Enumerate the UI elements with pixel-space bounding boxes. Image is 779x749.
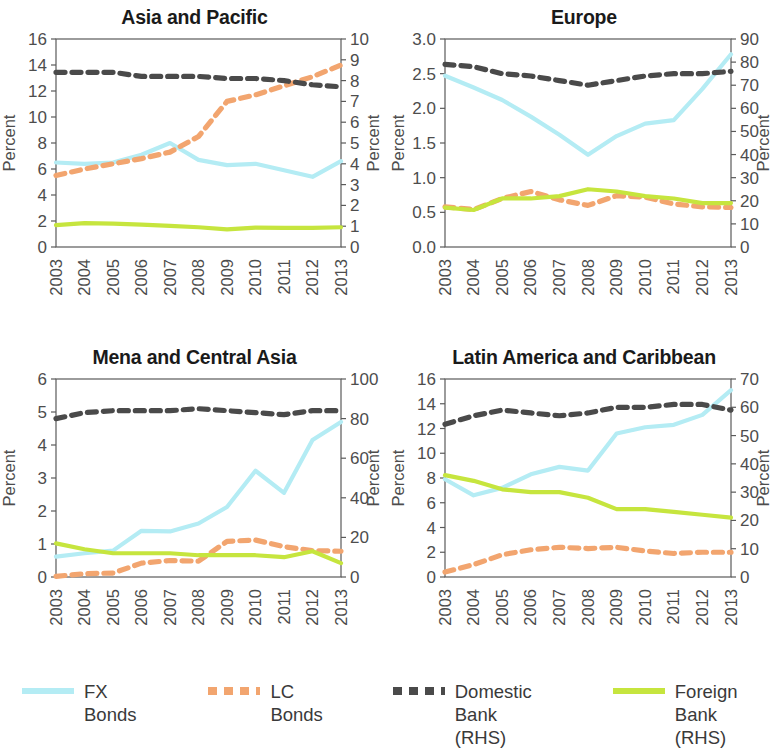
y2-axis-tick-label: 70	[740, 76, 759, 95]
y2-axis-tick-label: 5	[350, 134, 359, 153]
chart-svg: 0123456020406080100200320042005200620072…	[0, 369, 389, 669]
y-axis-tick-label: 12	[417, 420, 436, 439]
x-axis-tick-label: 2012	[693, 589, 711, 626]
legend-item-domestic-bank[interactable]: Domestic Bank (RHS)	[393, 680, 573, 749]
y-axis-tick-label: 6	[427, 494, 436, 513]
y-axis-tick-label: 10	[417, 444, 436, 463]
panel-title: Asia and Pacific	[0, 0, 389, 29]
x-axis-tick-label: 2004	[75, 259, 93, 296]
y2-axis-tick-label: 20	[740, 192, 759, 211]
y-axis-tick-label: 0	[427, 568, 436, 587]
y-axis-tick-label: 2	[38, 502, 47, 521]
y-axis-tick-label: 5	[38, 403, 47, 422]
x-axis-tick-label: 2011	[664, 589, 682, 624]
panel-europe: Europe 0.00.51.01.52.02.53.0010203040506…	[389, 0, 779, 340]
y2-axis-tick-label: 80	[740, 53, 759, 72]
legend-item-foreign-bank[interactable]: Foreign Bank (RHS)	[613, 680, 779, 749]
x-axis-tick-label: 2008	[189, 259, 207, 296]
x-axis-tick-label: 2010	[636, 259, 654, 296]
y2-axis-tick-label: 4	[350, 155, 359, 174]
x-axis-tick-label: 2013	[332, 259, 350, 296]
series-line-fx-bonds	[56, 422, 341, 557]
series-line-domestic-bank-rhs	[56, 409, 341, 419]
x-axis-tick-label: 2009	[218, 589, 236, 626]
legend-label: Domestic Bank (RHS)	[455, 680, 573, 749]
y2-axis-tick-label: 10	[740, 215, 759, 234]
y-axis-tick-label: 0.0	[412, 238, 436, 257]
x-axis-tick-label: 2011	[664, 259, 682, 294]
y-axis-tick-label: 10	[28, 108, 47, 127]
y2-axis-tick-label: 100	[350, 370, 378, 389]
legend-swatch-icon	[613, 688, 665, 694]
y-axis-tick-label: 3	[38, 469, 47, 488]
y-axis-tick-label: 14	[28, 56, 47, 75]
x-axis-tick-label: 2007	[550, 589, 568, 626]
chart-svg: 0246810121416012345678910200320042005200…	[0, 29, 389, 339]
x-axis-tick-label: 2007	[161, 259, 179, 296]
y2-axis-tick-label: 20	[740, 511, 759, 530]
chart-legend: FX BondsLC BondsDomestic Bank (RHS)Forei…	[0, 672, 779, 741]
x-axis-tick-label: 2013	[722, 259, 740, 296]
y-axis-tick-label: 1.5	[412, 134, 436, 153]
x-axis-tick-label: 2009	[607, 589, 625, 626]
panel-mena-and-central-asia: Mena and Central Asia 012345602040608010…	[0, 340, 389, 670]
y2-axis-title: Percent	[364, 114, 382, 171]
y-axis-tick-label: 12	[28, 82, 47, 101]
x-axis-tick-label: 2012	[303, 589, 321, 626]
y2-axis-tick-label: 3	[350, 176, 359, 195]
y2-axis-tick-label: 20	[350, 528, 369, 547]
legend-label: FX Bonds	[84, 680, 160, 726]
x-axis-tick-label: 2003	[436, 589, 454, 626]
y-axis-tick-label: 8	[38, 134, 47, 153]
y-axis-tick-label: 16	[417, 370, 436, 389]
y2-axis-tick-label: 0	[350, 238, 359, 257]
chart-svg: 0246810121416010203040506070200320042005…	[389, 369, 779, 669]
y2-axis-tick-label: 0	[740, 238, 749, 257]
x-axis-tick-label: 2012	[693, 259, 711, 296]
y-axis-tick-label: 3.0	[412, 30, 436, 49]
y2-axis-title: Percent	[754, 449, 772, 506]
x-axis-tick-label: 2009	[607, 259, 625, 296]
x-axis-tick-label: 2011	[275, 589, 293, 624]
y2-axis-tick-label: 10	[350, 30, 369, 49]
y-axis-title: Percent	[389, 114, 407, 171]
x-axis-tick-label: 2003	[47, 589, 65, 626]
panel-title: Mena and Central Asia	[0, 340, 389, 369]
x-axis-tick-label: 2008	[579, 259, 597, 296]
x-axis-tick-label: 2003	[47, 259, 65, 296]
y2-axis-tick-label: 9	[350, 51, 359, 70]
series-line-foreign-bank-rhs	[445, 475, 731, 517]
x-axis-tick-label: 2004	[75, 589, 93, 626]
y-axis-tick-label: 0	[38, 568, 47, 587]
legend-item-lc-bonds[interactable]: LC Bonds	[208, 680, 346, 726]
x-axis-tick-label: 2006	[132, 589, 150, 626]
panel-title: Latin America and Caribbean	[389, 340, 779, 369]
y2-axis-tick-label: 2	[350, 196, 359, 215]
y-axis-tick-label: 4	[38, 186, 47, 205]
x-axis-tick-label: 2010	[246, 259, 264, 296]
y2-axis-title: Percent	[364, 449, 382, 506]
y-axis-tick-label: 8	[427, 469, 436, 488]
x-axis-tick-label: 2005	[493, 589, 511, 626]
y-axis-tick-label: 2.0	[412, 99, 436, 118]
y-axis-tick-label: 1	[38, 535, 47, 554]
legend-label: Foreign Bank (RHS)	[675, 680, 779, 749]
y2-axis-tick-label: 0	[350, 568, 359, 587]
y-axis-tick-label: 2	[38, 212, 47, 231]
y2-axis-tick-label: 7	[350, 92, 359, 111]
y-axis-tick-label: 6	[38, 370, 47, 389]
y2-axis-tick-label: 10	[740, 540, 759, 559]
panel-asia-and-pacific: Asia and Pacific 02468101214160123456789…	[0, 0, 389, 340]
legend-item-fx-bonds[interactable]: FX Bonds	[22, 680, 160, 726]
x-axis-tick-label: 2008	[579, 589, 597, 626]
y2-axis-tick-label: 70	[740, 370, 759, 389]
series-line-lc-bonds	[445, 547, 731, 572]
x-axis-tick-label: 2004	[464, 259, 482, 296]
y-axis-tick-label: 4	[427, 519, 436, 538]
panel-title: Europe	[389, 0, 779, 29]
y2-axis-tick-label: 80	[350, 410, 369, 429]
y2-axis-tick-label: 60	[740, 398, 759, 417]
x-axis-tick-label: 2013	[332, 589, 350, 626]
y2-axis-tick-label: 50	[740, 427, 759, 446]
